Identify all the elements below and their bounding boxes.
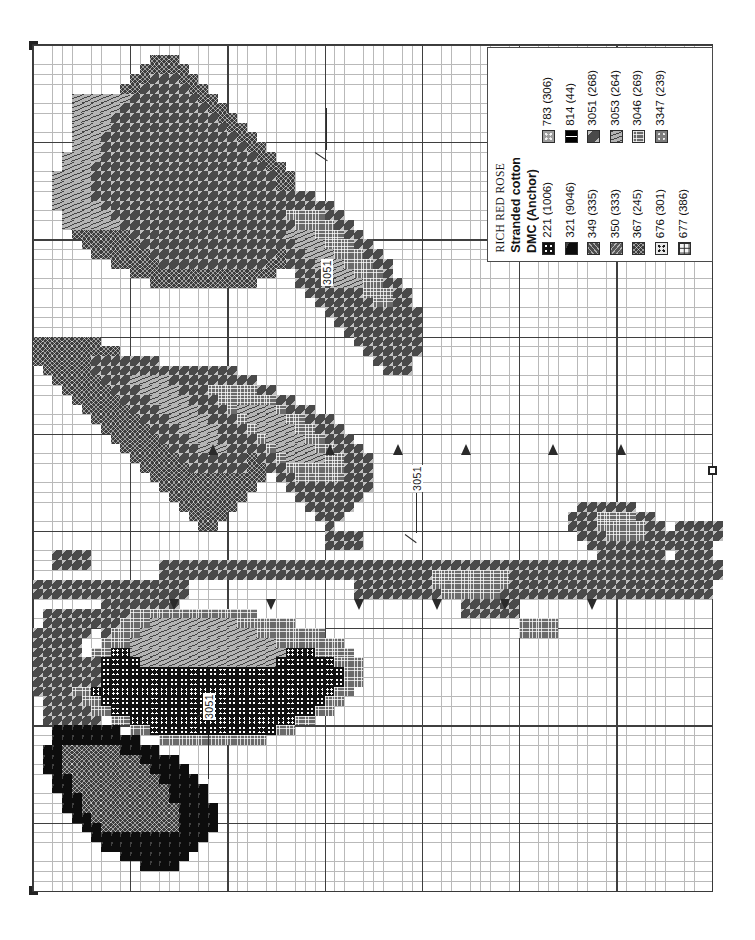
stitch-cell [257, 201, 267, 211]
stitch-cell [568, 580, 578, 590]
stitch-cell [159, 181, 169, 191]
stitch-cell [227, 677, 237, 687]
stitch-cell [247, 482, 257, 492]
stitch-cell [383, 298, 393, 308]
stitch-cell [62, 687, 72, 697]
stitch-cell [150, 706, 160, 716]
stitch-cell [82, 191, 92, 201]
stitch-cell [626, 531, 636, 541]
stitch-cell [247, 278, 257, 288]
stitch-cell [169, 55, 179, 65]
stitch-cell [325, 677, 335, 687]
stitch-cell [82, 375, 92, 385]
stitch-cell [111, 813, 121, 823]
stitch-cell [52, 725, 62, 735]
stitch-cell [276, 434, 286, 444]
stitch-cell [101, 706, 111, 716]
stitch-cell [198, 201, 208, 211]
stitch-cell [140, 648, 150, 658]
stitch-cell [140, 842, 150, 852]
stitch-cell [305, 687, 315, 697]
stitch-cell [422, 570, 432, 580]
stitch-cell [257, 657, 267, 667]
stitch-cell [266, 230, 276, 240]
stitch-cell [558, 580, 568, 590]
stitch-cell [111, 249, 121, 259]
stitch-cell [286, 628, 296, 638]
stitch-cell [266, 395, 276, 405]
stitch-cell [655, 521, 665, 531]
stitch-cell [373, 589, 383, 599]
stitch-cell [315, 667, 325, 677]
stitch-cell [636, 512, 646, 522]
stitch-cell [354, 589, 364, 599]
stitch-cell [305, 570, 315, 580]
stitch-cell [266, 560, 276, 570]
stitch-cell [422, 560, 432, 570]
stitch-cell [198, 444, 208, 454]
stitch-cell [305, 706, 315, 716]
stitch-cell [247, 142, 257, 152]
legend-swatch-3046 [632, 130, 645, 143]
stitch-cell [111, 589, 121, 599]
stitch-cell [198, 677, 208, 687]
stitch-cell [266, 463, 276, 473]
stitch-cell [286, 405, 296, 415]
stitch-cell [159, 570, 169, 580]
stitch-cell [33, 667, 43, 677]
stitch-cell [150, 832, 160, 842]
stitch-cell [169, 823, 179, 833]
stitch-cell [169, 84, 179, 94]
stitch-cell [325, 288, 335, 298]
stitch-cell [208, 463, 218, 473]
stitch-cell [363, 239, 373, 249]
stitch-cell [120, 842, 130, 852]
stitch-cell [208, 103, 218, 113]
stitch-cell [237, 657, 247, 667]
stitch-cell [247, 657, 257, 667]
stitch-cell [334, 259, 344, 269]
stitch-cell [150, 123, 160, 133]
stitch-cell [266, 687, 276, 697]
stitch-cell [198, 609, 208, 619]
stitch-cell [295, 463, 305, 473]
stitch-cell [257, 434, 267, 444]
stitch-cell [276, 181, 286, 191]
stitch-cell [247, 638, 257, 648]
stitch-cell [159, 259, 169, 269]
stitch-cell [295, 696, 305, 706]
stitch-cell [704, 560, 714, 570]
stitch-cell [140, 375, 150, 385]
stitch-cell [577, 521, 587, 531]
stitch-cell [276, 414, 286, 424]
stitch-cell [150, 162, 160, 172]
stitch-cell [189, 842, 199, 852]
stitch-cell [227, 113, 237, 123]
stitch-cell [587, 541, 597, 551]
stitch-cell [237, 210, 247, 220]
stitch-cell [120, 259, 130, 269]
stitch-cell [91, 171, 101, 181]
stitch-cell [237, 181, 247, 191]
stitch-cell [120, 220, 130, 230]
stitch-cell [82, 580, 92, 590]
stitch-cell [159, 861, 169, 871]
stitch-cell [179, 638, 189, 648]
stitch-cell [72, 375, 82, 385]
stitch-cell [305, 638, 315, 648]
stitch-cell [208, 162, 218, 172]
stitch-cell [704, 580, 714, 590]
stitch-cell [266, 239, 276, 249]
stitch-cell [383, 366, 393, 376]
stitch-cell [257, 735, 267, 745]
stitch-cell [91, 580, 101, 590]
stitch-cell [169, 560, 179, 570]
stitch-cell [218, 395, 228, 405]
stitch-cell [325, 570, 335, 580]
stitch-cell [189, 453, 199, 463]
stitch-cell [150, 259, 160, 269]
stitch-cell [111, 735, 121, 745]
stitch-cell [325, 706, 335, 716]
stitch-cell [140, 162, 150, 172]
stitch-cell [130, 648, 140, 658]
